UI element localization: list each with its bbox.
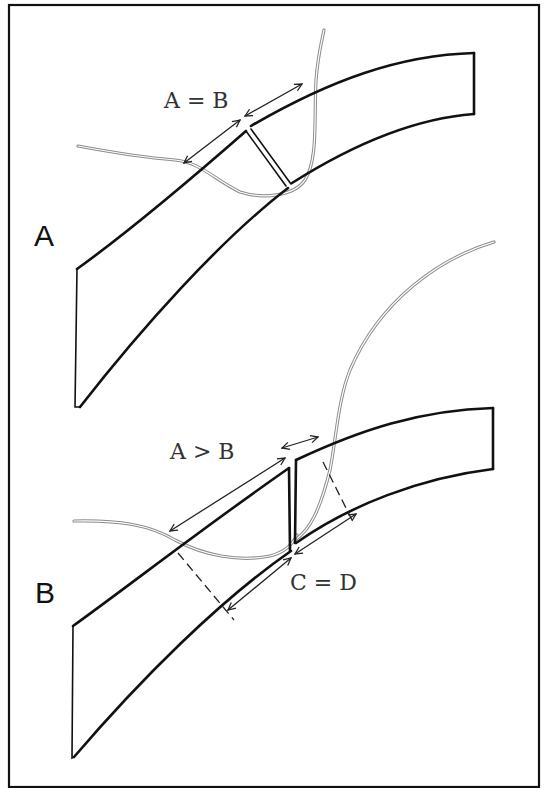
- panel-a-strip-top-edge-right: [251, 53, 474, 126]
- panel-b-strip-top-edge-right: [296, 408, 493, 460]
- panel-b-relation-label-top: A > B: [169, 439, 234, 464]
- panel-a-label: A: [34, 219, 54, 252]
- panel-b: A > B C = D B: [35, 408, 493, 758]
- panel-a-strip-bottom-edge-right: [292, 114, 474, 183]
- panel-b-strip-bottom-edge-right: [296, 469, 493, 543]
- panel-b-label: B: [35, 576, 55, 609]
- panel-a-fracture: [246, 129, 291, 186]
- panel-a-strip-bottom-edge-left: [80, 188, 288, 407]
- panel-a-arrow-a: [184, 120, 240, 163]
- panel-b-contour-line-upper: [295, 242, 494, 540]
- panel-a-arrow-b: [245, 84, 302, 116]
- panel-b-fracture-right-face: [295, 460, 296, 543]
- diagram-figure: A = B A A > B: [0, 0, 545, 788]
- panel-b-strip-bottom-edge-left: [74, 551, 291, 757]
- panel-b-arrow-a: [170, 458, 285, 531]
- panel-b-contour-line-lower: [74, 521, 297, 558]
- panel-b-fracture-left-face: [289, 468, 290, 551]
- panel-b-strip-left-end: [72, 626, 74, 758]
- panel-a-strip-left-end: [75, 269, 80, 407]
- panel-b-strip-top-edge-left: [73, 468, 289, 626]
- panel-b-dashed-normal-left: [178, 553, 234, 620]
- panel-a-relation-label: A = B: [163, 88, 228, 113]
- panel-b-arrow-c: [228, 558, 291, 610]
- panel-b-relation-label-bottom: C = D: [290, 570, 357, 595]
- panel-a: A = B A: [34, 30, 474, 407]
- panel-b-arrow-b: [282, 437, 318, 448]
